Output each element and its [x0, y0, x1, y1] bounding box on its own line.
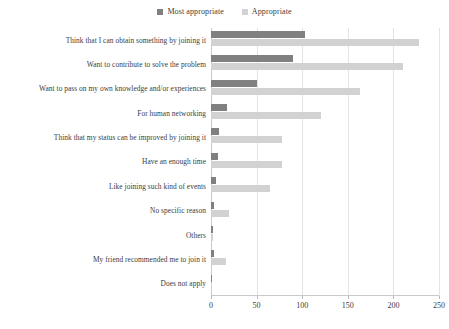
category-label: Others — [0, 231, 211, 240]
bar-group — [211, 272, 449, 296]
bar-most-appropriate — [211, 153, 218, 160]
bar-most-appropriate — [211, 55, 293, 62]
chart-row: Think that my status can be improved by … — [0, 125, 449, 149]
bar-group — [211, 77, 449, 101]
bar-appropriate — [211, 136, 282, 143]
bar-most-appropriate — [211, 104, 227, 111]
legend-label-most-appropriate: Most appropriate — [167, 7, 223, 16]
bar-appropriate — [211, 112, 321, 119]
bar-appropriate — [211, 88, 360, 95]
legend-swatch-most-appropriate — [157, 9, 163, 15]
bar-most-appropriate — [211, 275, 212, 282]
bar-group — [211, 247, 449, 271]
bar-appropriate — [211, 283, 212, 290]
chart-row: Like joining such kind of events — [0, 174, 449, 198]
bar-appropriate — [211, 185, 270, 192]
bar-appropriate — [211, 161, 282, 168]
bar-appropriate — [211, 39, 419, 46]
bar-most-appropriate — [211, 80, 257, 87]
chart-row: Want to pass on my own knowledge and/or … — [0, 77, 449, 101]
x-tick-mark — [348, 296, 349, 299]
bar-group — [211, 199, 449, 223]
x-tick-label: 0 — [209, 301, 213, 311]
category-label: Think that I can obtain something by joi… — [0, 36, 211, 45]
x-tick-mark — [257, 296, 258, 299]
chart-row: No specific reason — [0, 199, 449, 223]
legend-label-appropriate: Appropriate — [252, 7, 292, 16]
legend-item-appropriate: Appropriate — [242, 7, 292, 16]
x-tick-mark — [439, 296, 440, 299]
x-tick-mark — [302, 296, 303, 299]
chart-legend: Most appropriate Appropriate — [0, 7, 449, 16]
bar-most-appropriate — [211, 202, 214, 209]
bar-appropriate — [211, 63, 403, 70]
bar-most-appropriate — [211, 250, 214, 257]
chart-row: Have an enough time — [0, 150, 449, 174]
chart-row: Others — [0, 223, 449, 247]
chart-row: For human networking — [0, 101, 449, 125]
bar-most-appropriate — [211, 31, 305, 38]
category-label: My friend recommended me to join it — [0, 255, 211, 264]
category-label: Want to pass on my own knowledge and/or … — [0, 84, 211, 93]
chart-row: My friend recommended me to join it — [0, 247, 449, 271]
x-tick-label: 200 — [387, 301, 399, 311]
legend-item-most-appropriate: Most appropriate — [157, 7, 223, 16]
chart-row: Want to contribute to solve the problem — [0, 52, 449, 76]
bar-group — [211, 174, 449, 198]
bar-most-appropriate — [211, 128, 219, 135]
bar-group — [211, 223, 449, 247]
category-label: Have an enough time — [0, 157, 211, 166]
bar-most-appropriate — [211, 177, 216, 184]
chart-row: Does not apply — [0, 272, 449, 296]
x-tick-label: 100 — [296, 301, 308, 311]
bar-group — [211, 150, 449, 174]
category-label: Think that my status can be improved by … — [0, 133, 211, 142]
bar-most-appropriate — [211, 226, 213, 233]
x-axis: 050100150200250 — [211, 296, 439, 320]
bar-group — [211, 101, 449, 125]
category-label: For human networking — [0, 109, 211, 118]
x-tick-label: 250 — [433, 301, 445, 311]
bar-appropriate — [211, 258, 226, 265]
bar-appropriate — [211, 234, 213, 241]
x-tick-label: 150 — [342, 301, 354, 311]
x-tick-mark — [211, 296, 212, 299]
bar-group — [211, 52, 449, 76]
chart-row: Think that I can obtain something by joi… — [0, 28, 449, 52]
bar-group — [211, 125, 449, 149]
legend-swatch-appropriate — [242, 9, 248, 15]
category-label: Like joining such kind of events — [0, 182, 211, 191]
x-tick-label: 50 — [253, 301, 261, 311]
bar-group — [211, 28, 449, 52]
category-label: Want to contribute to solve the problem — [0, 60, 211, 69]
category-label: Does not apply — [0, 279, 211, 288]
category-label: No specific reason — [0, 206, 211, 215]
chart-rows: Think that I can obtain something by joi… — [0, 28, 449, 296]
bar-appropriate — [211, 210, 229, 217]
x-tick-mark — [393, 296, 394, 299]
bar-chart: Most appropriate Appropriate Think that … — [0, 0, 449, 329]
